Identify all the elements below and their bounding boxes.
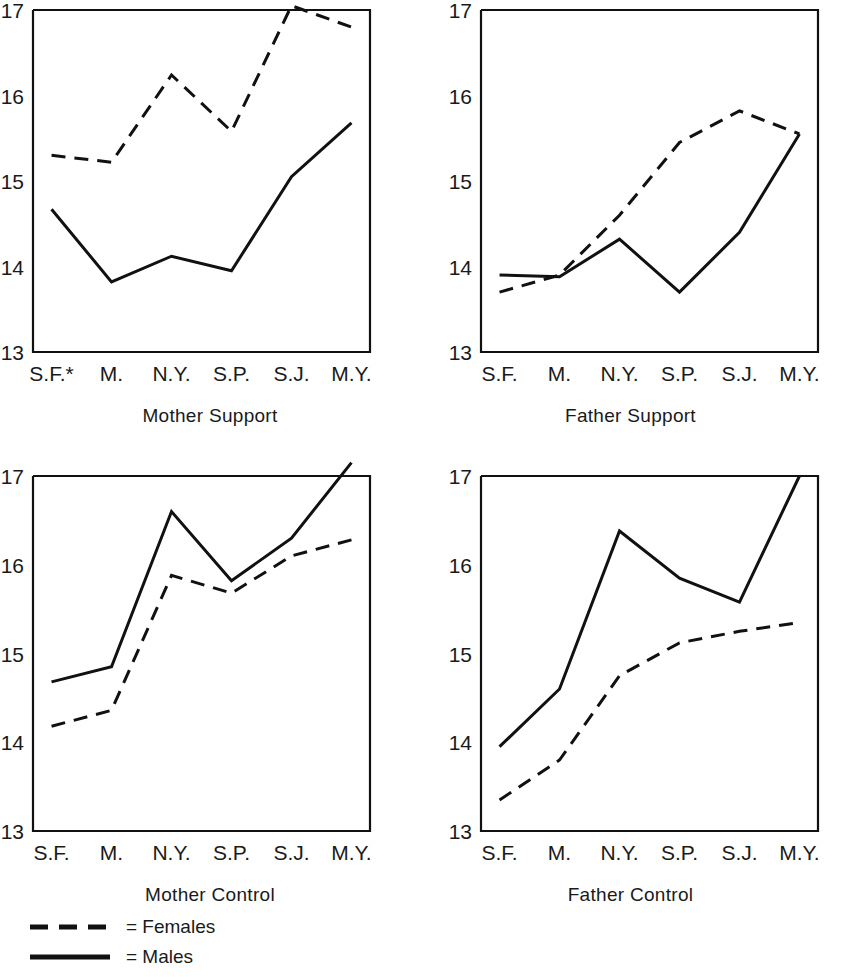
x-tick-sp: S.P. (661, 841, 698, 860)
series-group (500, 111, 800, 292)
x-tick-ny: N.Y. (600, 841, 638, 860)
series-females (500, 622, 800, 800)
plot-father-support: 1716151413 S.F.M.N.Y.S.P.S.J.M.Y. (420, 0, 841, 400)
series-males (52, 123, 352, 282)
chart-panel-mother-control: 1716151413 S.F.M.N.Y.S.P.S.J.M.Y. Mother… (0, 460, 420, 900)
y-tick-13: 13 (449, 820, 472, 843)
y-tick-13: 13 (449, 341, 472, 364)
axis-frame (33, 476, 370, 831)
chart-panel-father-support: 1716151413 S.F.M.N.Y.S.P.S.J.M.Y. Father… (420, 0, 841, 440)
series-females (52, 6, 352, 162)
chart-panel-mother-support: 1716151413 S.F.*M.N.Y.S.P.S.J.M.Y. Mothe… (0, 0, 420, 440)
legend-label-males: = Males (126, 946, 193, 968)
x-tick-sj: S.J. (721, 841, 757, 860)
series-males (500, 134, 800, 292)
plot-area-father-control (481, 476, 818, 831)
solid-line-icon (28, 950, 112, 964)
x-tick-labels: S.F.M.N.Y.S.P.S.J.M.Y. (33, 841, 371, 860)
x-tick-labels: S.F.M.N.Y.S.P.S.J.M.Y. (481, 362, 819, 385)
x-tick-m: M. (100, 841, 123, 860)
y-tick-15: 15 (1, 643, 24, 666)
panel-grid: 1716151413 S.F.*M.N.Y.S.P.S.J.M.Y. Mothe… (0, 0, 841, 900)
x-tick-ny: N.Y. (600, 362, 638, 385)
x-tick-sf: S.F. (33, 841, 69, 860)
series-group (52, 6, 352, 282)
x-tick-ny: N.Y. (152, 841, 190, 860)
x-tick-sp: S.P. (213, 841, 250, 860)
plot-mother-control: 1716151413 S.F.M.N.Y.S.P.S.J.M.Y. (0, 460, 420, 860)
series-group (52, 463, 352, 727)
caption-mother-support: Mother Support (0, 405, 420, 427)
plot-area-mother-support (33, 10, 370, 352)
caption-father-support: Father Support (420, 405, 841, 427)
figure-root: 1716151413 S.F.*M.N.Y.S.P.S.J.M.Y. Mothe… (0, 0, 841, 977)
x-tick-sp: S.P. (661, 362, 698, 385)
x-tick-my: M.Y. (331, 841, 371, 860)
legend-label-females: = Females (126, 916, 215, 938)
dashed-line-icon (28, 920, 112, 934)
series-males (500, 476, 800, 747)
plot-area-mother-control (33, 476, 370, 831)
series-females (52, 540, 352, 726)
y-tick-16: 16 (449, 554, 472, 577)
x-tick-labels: S.F.*M.N.Y.S.P.S.J.M.Y. (29, 362, 371, 385)
y-tick-16: 16 (449, 85, 472, 108)
x-tick-my: M.Y. (779, 362, 819, 385)
y-tick-15: 15 (449, 170, 472, 193)
x-tick-sj: S.J. (721, 362, 757, 385)
y-tick-labels: 1716151413 (1, 465, 25, 843)
caption-father-control: Father Control (420, 884, 841, 906)
y-tick-14: 14 (1, 256, 25, 279)
axis-frame (481, 476, 818, 831)
y-tick-14: 14 (449, 256, 473, 279)
x-tick-my: M.Y. (331, 362, 371, 385)
x-tick-labels: S.F.M.N.Y.S.P.S.J.M.Y. (481, 841, 819, 860)
legend-entry-females: = Females (28, 912, 348, 942)
plot-father-control: 1716151413 S.F.M.N.Y.S.P.S.J.M.Y. (420, 460, 841, 860)
series-group (500, 476, 800, 800)
x-tick-sj: S.J. (273, 362, 309, 385)
x-tick-sj: S.J. (273, 841, 309, 860)
y-tick-15: 15 (1, 170, 24, 193)
y-tick-17: 17 (1, 465, 24, 488)
y-tick-15: 15 (449, 643, 472, 666)
y-tick-17: 17 (449, 0, 472, 22)
y-tick-17: 17 (449, 465, 472, 488)
y-tick-13: 13 (1, 341, 24, 364)
y-tick-16: 16 (1, 554, 24, 577)
y-tick-16: 16 (1, 85, 24, 108)
legend-entry-males: = Males (28, 942, 348, 972)
x-tick-m: M. (548, 841, 571, 860)
y-tick-labels: 1716151413 (449, 0, 473, 364)
legend: = Females = Males (28, 912, 348, 972)
axis-frame (33, 10, 370, 352)
y-tick-labels: 1716151413 (449, 465, 473, 843)
plot-mother-support: 1716151413 S.F.*M.N.Y.S.P.S.J.M.Y. (0, 0, 420, 400)
y-tick-labels: 1716151413 (1, 0, 25, 364)
y-tick-14: 14 (1, 731, 25, 754)
x-tick-sf: S.F.* (29, 362, 73, 385)
x-tick-my: M.Y. (779, 841, 819, 860)
y-tick-13: 13 (1, 820, 24, 843)
x-tick-m: M. (100, 362, 123, 385)
y-tick-17: 17 (1, 0, 24, 22)
x-tick-sp: S.P. (213, 362, 250, 385)
y-tick-14: 14 (449, 731, 473, 754)
x-tick-sf: S.F. (481, 362, 517, 385)
chart-panel-father-control: 1716151413 S.F.M.N.Y.S.P.S.J.M.Y. Father… (420, 460, 841, 900)
x-tick-sf: S.F. (481, 841, 517, 860)
series-males (52, 463, 352, 682)
x-tick-m: M. (548, 362, 571, 385)
x-tick-ny: N.Y. (152, 362, 190, 385)
caption-mother-control: Mother Control (0, 884, 420, 906)
